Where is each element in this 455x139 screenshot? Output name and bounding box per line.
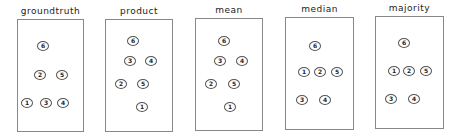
panel-groundtruth <box>17 19 84 132</box>
graph-node-4: 4 <box>57 98 69 108</box>
graph-node-3: 3 <box>214 56 226 66</box>
graph-node-2: 2 <box>115 79 127 89</box>
graph-node-6: 6 <box>398 38 410 48</box>
graph-node-3: 3 <box>124 56 136 66</box>
graph-node-6: 6 <box>218 36 230 46</box>
graph-node-4: 4 <box>236 56 248 66</box>
graph-node-6: 6 <box>127 36 139 46</box>
graph-node-5: 5 <box>137 79 149 89</box>
graph-node-4: 4 <box>408 94 420 104</box>
graph-node-2: 2 <box>34 70 46 80</box>
graph-node-1: 1 <box>388 66 400 76</box>
graph-node-3: 3 <box>296 95 308 105</box>
graph-node-6: 6 <box>309 41 321 51</box>
graph-node-1: 1 <box>298 67 310 77</box>
panel-title-majority: majority <box>375 3 444 13</box>
graph-node-4: 4 <box>145 56 157 66</box>
graph-node-1: 1 <box>224 102 236 112</box>
panel-title-median: median <box>285 4 354 14</box>
graph-node-2: 2 <box>314 67 326 77</box>
panel-title-product: product <box>105 6 173 16</box>
graph-node-5: 5 <box>420 66 432 76</box>
panel-title-groundtruth: groundtruth <box>17 6 84 16</box>
panel-title-mean: mean <box>195 5 263 15</box>
panel-mean <box>195 18 263 131</box>
graph-node-3: 3 <box>40 98 52 108</box>
graph-node-6: 6 <box>37 41 49 51</box>
graph-node-1: 1 <box>21 98 33 108</box>
graph-node-5: 5 <box>331 67 343 77</box>
graph-node-5: 5 <box>56 70 68 80</box>
graph-node-2: 2 <box>403 66 415 76</box>
graph-node-3: 3 <box>385 94 397 104</box>
graph-node-5: 5 <box>228 79 240 89</box>
graph-node-2: 2 <box>205 79 217 89</box>
panel-product <box>105 19 173 132</box>
graph-node-4: 4 <box>319 95 331 105</box>
graph-node-1: 1 <box>136 102 148 112</box>
